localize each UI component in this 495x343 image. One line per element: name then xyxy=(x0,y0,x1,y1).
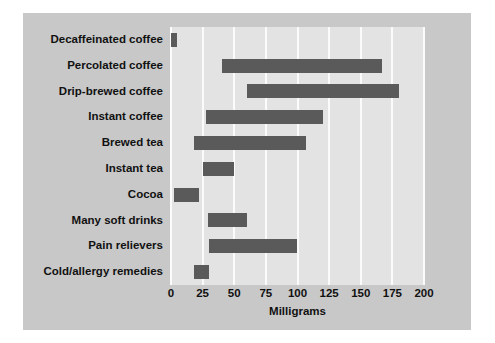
bar-rows: Decaffeinated coffeePercolated coffeeDri… xyxy=(23,27,471,285)
category-label: Cold/allergy remedies xyxy=(23,259,163,285)
bar xyxy=(203,162,235,176)
bar xyxy=(222,59,383,73)
bar-row: Decaffeinated coffee xyxy=(23,27,471,53)
bar-row: Cocoa xyxy=(23,182,471,208)
bar xyxy=(206,110,322,124)
bar-row: Brewed tea xyxy=(23,130,471,156)
bar xyxy=(247,84,399,98)
bar-row: Instant tea xyxy=(23,156,471,182)
bar-row: Instant coffee xyxy=(23,104,471,130)
chart-figure: Decaffeinated coffeePercolated coffeeDri… xyxy=(23,13,471,330)
category-label: Drip-brewed coffee xyxy=(23,79,163,105)
category-label: Many soft drinks xyxy=(23,208,163,234)
bar xyxy=(209,239,298,253)
bar-row: Percolated coffee xyxy=(23,53,471,79)
bar xyxy=(208,213,247,227)
bar xyxy=(171,33,177,47)
bar xyxy=(194,265,209,279)
bar-row: Many soft drinks xyxy=(23,208,471,234)
bar-row: Drip-brewed coffee xyxy=(23,79,471,105)
x-axis-tick-labels: 0255075100125150175200 xyxy=(23,287,471,305)
category-label: Brewed tea xyxy=(23,130,163,156)
x-axis-title: Milligrams xyxy=(171,305,424,317)
bar xyxy=(174,188,199,202)
category-label: Instant tea xyxy=(23,156,163,182)
bar-row: Cold/allergy remedies xyxy=(23,259,471,285)
category-label: Decaffeinated coffee xyxy=(23,27,163,53)
category-label: Cocoa xyxy=(23,182,163,208)
x-axis-title-text: Milligrams xyxy=(269,305,326,317)
bar xyxy=(194,136,307,150)
category-label: Instant coffee xyxy=(23,104,163,130)
category-label: Percolated coffee xyxy=(23,53,163,79)
bar-row: Pain relievers xyxy=(23,233,471,259)
x-tick-label: 200 xyxy=(404,287,444,299)
category-label: Pain relievers xyxy=(23,233,163,259)
